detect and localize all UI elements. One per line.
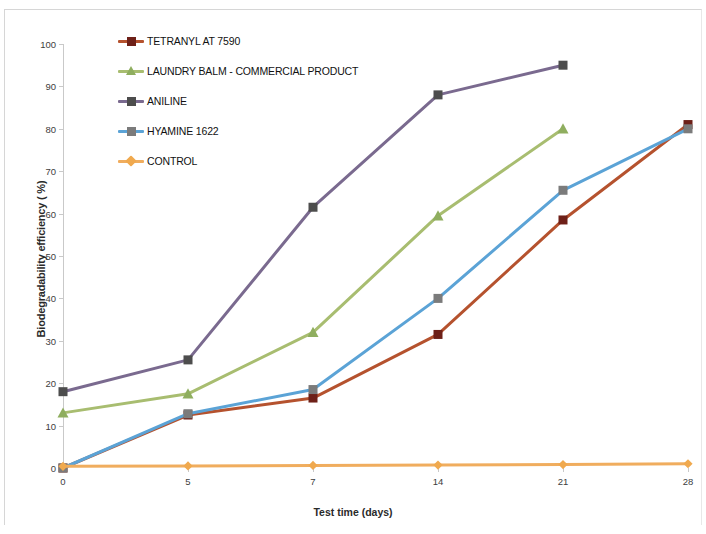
y-tick-label: 0 <box>51 463 56 474</box>
data-point-marker <box>183 461 192 470</box>
data-point-marker <box>308 461 317 470</box>
data-point-marker <box>184 409 193 418</box>
legend-marker-icon <box>125 155 136 166</box>
legend-swatch <box>118 95 144 107</box>
legend-swatch <box>118 155 144 167</box>
legend-item[interactable]: CONTROL <box>118 146 538 176</box>
legend-swatch <box>118 125 144 137</box>
legend-item[interactable]: TETRANYL AT 7590 <box>118 26 538 56</box>
data-point-marker <box>559 215 568 224</box>
legend-marker-icon <box>127 97 136 106</box>
data-point-marker <box>309 385 318 394</box>
series-line <box>63 464 688 467</box>
x-tick-label: 14 <box>433 476 444 487</box>
x-tick-mark <box>688 468 689 472</box>
chart-container: Biodegradability efficiency ( %) Test ti… <box>0 0 706 534</box>
data-point-marker <box>558 460 567 469</box>
x-axis-title: Test time (days) <box>0 506 706 518</box>
legend-label: CONTROL <box>147 155 197 167</box>
legend-marker-icon <box>127 127 136 136</box>
y-tick-label: 70 <box>45 166 56 177</box>
legend-item[interactable]: ANILINE <box>118 86 538 116</box>
data-point-marker <box>683 459 692 468</box>
x-tick-label: 7 <box>310 476 315 487</box>
y-tick-label: 30 <box>45 335 56 346</box>
series-line <box>63 129 688 468</box>
y-tick-label: 90 <box>45 81 56 92</box>
legend-swatch <box>118 65 144 77</box>
y-tick-label: 20 <box>45 378 56 389</box>
data-point-marker <box>559 186 568 195</box>
y-tick-label: 80 <box>45 123 56 134</box>
legend-label: TETRANYL AT 7590 <box>147 35 240 47</box>
chart-legend: TETRANYL AT 7590LAUNDRY BALM - COMMERCIA… <box>118 26 538 176</box>
data-point-marker <box>184 355 193 364</box>
series-3 <box>59 124 693 472</box>
data-point-marker <box>434 330 443 339</box>
y-tick-label: 100 <box>40 39 56 50</box>
legend-label: ANILINE <box>147 95 187 107</box>
x-tick-label: 28 <box>683 476 694 487</box>
y-tick-label: 50 <box>45 251 56 262</box>
legend-label: HYAMINE 1622 <box>147 125 219 137</box>
x-tick-label: 5 <box>185 476 190 487</box>
data-point-marker <box>434 294 443 303</box>
data-point-marker <box>558 123 569 133</box>
series-4 <box>58 459 692 471</box>
data-point-marker <box>433 460 442 469</box>
legend-item[interactable]: LAUNDRY BALM - COMMERCIAL PRODUCT <box>118 56 538 86</box>
data-point-marker <box>684 124 693 133</box>
y-tick-label: 60 <box>45 208 56 219</box>
x-tick-label: 0 <box>60 476 65 487</box>
data-point-marker <box>59 387 68 396</box>
data-point-marker <box>309 394 318 403</box>
legend-swatch <box>118 35 144 47</box>
x-tick-label: 21 <box>558 476 569 487</box>
data-point-marker <box>309 203 318 212</box>
legend-marker-icon <box>127 37 136 46</box>
legend-item[interactable]: HYAMINE 1622 <box>118 116 538 146</box>
legend-label: LAUNDRY BALM - COMMERCIAL PRODUCT <box>147 65 358 77</box>
y-tick-label: 10 <box>45 420 56 431</box>
legend-marker-icon <box>126 66 136 75</box>
data-point-marker <box>559 61 568 70</box>
y-tick-label: 40 <box>45 293 56 304</box>
